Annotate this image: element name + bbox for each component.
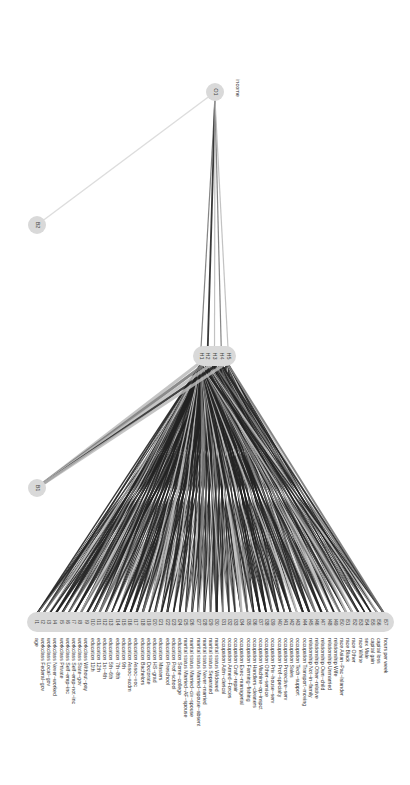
input-node-id: I44 — [302, 619, 308, 626]
input-node-id: I8 — [77, 620, 83, 624]
input-node-id: I48 — [327, 619, 333, 626]
input-feature-label: education Assoc−voc — [133, 638, 139, 687]
input-feature-label: occupation Farming−fishing — [246, 638, 252, 702]
input-node-id: I16 — [127, 619, 133, 626]
hidden-node-id: H3 — [212, 352, 218, 359]
input-feature-label: occupation Priv−house−serv — [270, 638, 276, 704]
input-node-id: I12 — [102, 619, 108, 626]
input-feature-label: education Some−college — [177, 638, 183, 695]
input-node-id: I21 — [158, 619, 164, 626]
input-feature-label: education Assoc−acdm — [127, 638, 133, 692]
input-feature-label: relationship Own−child — [320, 638, 326, 690]
input-feature-label: education Preschool — [165, 638, 171, 685]
input-node-id: I40 — [277, 619, 283, 626]
input-node-id: I35 — [246, 619, 252, 626]
input-feature-label: education 11th — [90, 638, 96, 672]
output-label: income — [235, 79, 241, 97]
bias-node-id: B1 — [35, 485, 41, 492]
input-node-id: I51 — [345, 619, 351, 626]
input-feature-label: race Asian−Pac−Islander — [339, 638, 345, 696]
input-node-id: I6 — [65, 620, 71, 624]
input-feature-label: capital gain — [370, 638, 376, 664]
input-node-id: I57 — [383, 619, 389, 626]
hidden-node-id: H5 — [226, 352, 232, 359]
input-node-id: I25 — [183, 619, 189, 626]
input-node-id: I56 — [376, 619, 382, 626]
input-feature-label: marital status Married−AF−spouse — [183, 638, 189, 717]
input-node-id: I2 — [40, 620, 46, 624]
input-node-id: I19 — [146, 619, 152, 626]
input-node-id: I49 — [333, 619, 339, 626]
input-node-id: I54 — [364, 619, 370, 626]
input-feature-label: workclass Without−pay — [83, 638, 89, 692]
input-feature-label: hours per week — [383, 638, 389, 674]
edge-hidden-output — [208, 100, 215, 348]
input-feature-label: sex Male — [364, 638, 370, 659]
input-feature-label: workclass Federal−gov — [40, 638, 46, 692]
input-feature-label: workclass State−gov — [77, 638, 83, 686]
input-feature-label: relationship Not−in−family — [308, 638, 314, 698]
input-feature-label: relationship Unmarried — [327, 638, 333, 690]
input-node-id: I1 — [34, 620, 40, 624]
input-node-id: I55 — [370, 619, 376, 626]
input-feature-label: education 12th — [96, 638, 102, 672]
input-node-id: I36 — [252, 619, 258, 626]
input-node-id: I34 — [239, 619, 245, 626]
input-node-id: I24 — [177, 619, 183, 626]
input-feature-label: workclass Never−worked — [52, 638, 58, 696]
input-node-id: I37 — [258, 619, 264, 626]
input-feature-label: race White — [358, 638, 364, 663]
input-node-id: I10 — [90, 619, 96, 626]
input-feature-label: marital status Widowed — [214, 638, 220, 692]
input-feature-label: relationship Other−relative — [314, 638, 320, 699]
input-node-id: I42 — [289, 619, 295, 626]
output-node-id: O1 — [213, 88, 219, 95]
input-node-id: I41 — [283, 619, 289, 626]
input-node-id: I38 — [264, 619, 270, 626]
input-node-id: I27 — [196, 619, 202, 626]
neural-network-diagram: I1I2I3I4I5I6I7I8I9I10I11I12I13I14I15I16I… — [0, 0, 410, 785]
input-node-id: I50 — [339, 619, 345, 626]
input-feature-label: workclass Local−gov — [46, 638, 52, 686]
input-node-id: I14 — [115, 619, 121, 626]
input-node-id: I52 — [352, 619, 358, 626]
input-feature-label: education 9th — [121, 638, 127, 669]
input-feature-label: education Prof−school — [171, 638, 177, 689]
input-feature-label: occupation Armed−Forces — [227, 638, 233, 699]
input-feature-label: race Black — [345, 638, 351, 663]
input-node-id: I45 — [308, 619, 314, 626]
edge-hidden-output — [215, 100, 216, 348]
hidden-node-id: H4 — [219, 352, 225, 359]
input-node-id: I22 — [165, 619, 171, 626]
input-node-id: I29 — [208, 619, 214, 626]
input-feature-label: education 1st−4th — [102, 638, 108, 679]
input-feature-label: education 5th−6th — [108, 638, 114, 680]
input-node-id: I30 — [214, 619, 220, 626]
input-node-id: I11 — [96, 619, 102, 626]
input-feature-label: education Bachelors — [140, 638, 146, 685]
input-feature-label: marital status Married−civ−spouse — [189, 638, 195, 717]
edge-hidden-output — [215, 100, 221, 348]
input-node-id: I4 — [52, 620, 58, 624]
input-feature-label: age — [34, 638, 40, 647]
input-feature-label: race Other — [351, 638, 357, 663]
input-node-id: I7 — [71, 620, 77, 624]
bias-node-id: B2 — [35, 222, 41, 229]
input-node-id: I47 — [320, 619, 326, 626]
input-node-id: I9 — [84, 620, 90, 624]
input-feature-label: education Masters — [158, 638, 164, 681]
input-feature-label: occupation Other−service — [264, 638, 270, 697]
input-feature-label: occupation Transport−moving — [302, 638, 308, 706]
input-feature-label: occupation Machine−op−inspct — [258, 638, 264, 710]
input-node-id: I28 — [202, 619, 208, 626]
input-node-id: I18 — [140, 619, 146, 626]
input-feature-label: occupation Sales — [289, 638, 295, 678]
input-feature-label: occupation Handlers−cleaners — [252, 638, 258, 708]
edges-input-to-hidden — [36, 364, 385, 615]
input-node-id: I33 — [233, 619, 239, 626]
input-feature-label: marital status Never−married — [202, 638, 208, 705]
hidden-node-id: H2 — [205, 352, 211, 359]
input-node-id: I5 — [59, 620, 65, 624]
input-node-id: I15 — [121, 619, 127, 626]
input-node-id: I43 — [295, 619, 301, 626]
